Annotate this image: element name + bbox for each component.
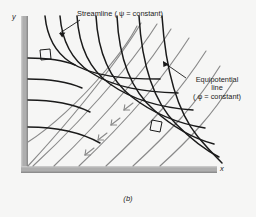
- y-axis-label: y: [12, 13, 16, 21]
- equipotential-annotation-label: Equipotential line ( φ = constant): [183, 76, 251, 101]
- streamline-annotation-label: Streamline ( ψ = constant): [77, 10, 163, 18]
- figure-background: [0, 0, 256, 217]
- vertical-wall: [21, 16, 28, 173]
- panel-caption: (b): [0, 195, 256, 204]
- horizontal-wall: [21, 166, 217, 173]
- flow-net-figure: [0, 0, 256, 217]
- x-axis-label: x: [220, 165, 224, 173]
- equipotential-annotation-line-3: ( φ = constant): [183, 93, 251, 101]
